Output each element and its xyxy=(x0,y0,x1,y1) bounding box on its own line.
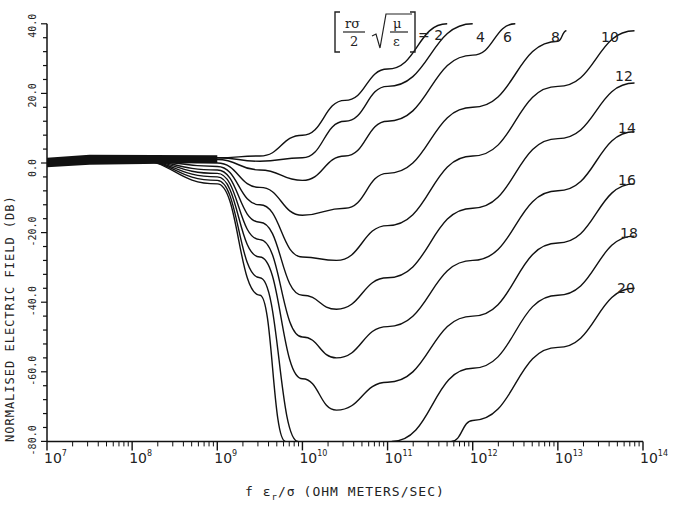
curve-12 xyxy=(47,83,635,309)
y-tick-label: -60.0 xyxy=(27,356,38,386)
curve-label-8: 8 xyxy=(551,29,560,45)
y-tick-label: 40.0 xyxy=(27,14,38,38)
x-tick-label: 1010 xyxy=(299,449,327,466)
curve-label-10: 10 xyxy=(601,29,619,45)
formula-equals: = 2 xyxy=(418,27,443,43)
y-tick-label: 0.0 xyxy=(27,159,38,177)
x-axis-title: f εr/σ(OHM METERS/SEC) xyxy=(245,484,445,502)
curve-18 xyxy=(392,236,635,441)
y-tick-label: 20.0 xyxy=(27,83,38,107)
x-tick-label: 108 xyxy=(129,449,152,466)
left-bracket-icon xyxy=(335,12,340,52)
chart: 40.020.00.0-20.0-40.0-60.0-80.0107108109… xyxy=(0,0,681,512)
curve-2 xyxy=(47,24,447,163)
curve-10 xyxy=(47,31,635,261)
x-tick-label: 1014 xyxy=(640,449,668,466)
curve-20 xyxy=(451,288,634,441)
curve-labels: 4 6 8 10 12 14 16 18 20 xyxy=(476,29,638,296)
curve-label-4: 4 xyxy=(476,29,485,45)
x-tick-label: 107 xyxy=(44,449,67,466)
curve-4 xyxy=(47,24,473,163)
curve-label-20: 20 xyxy=(617,280,635,296)
x-tick-label: 1011 xyxy=(385,449,413,466)
plot-area xyxy=(47,24,635,442)
y-axis-title: NORMALISED ELECTRIC FIELD (DB) xyxy=(3,195,17,442)
curve-label-12: 12 xyxy=(615,68,633,84)
curve-label-6: 6 xyxy=(503,29,512,45)
x-tick-label: 1012 xyxy=(470,449,498,466)
sqrt-icon xyxy=(372,14,412,48)
y-tick-label: -80.0 xyxy=(27,425,38,455)
legend-formula: rσ 2 μ ε = 2 xyxy=(335,12,443,52)
y-tick-label: -20.0 xyxy=(27,216,38,246)
curve-label-18: 18 xyxy=(620,225,638,241)
y-tick-label: -40.0 xyxy=(27,286,38,316)
formula-root-denominator: ε xyxy=(393,34,400,49)
x-tick-label: 109 xyxy=(214,449,237,466)
curve-8 xyxy=(47,31,566,215)
formula-root-numerator: μ xyxy=(393,16,401,31)
curve-label-14: 14 xyxy=(618,120,636,136)
curve-16 xyxy=(47,160,635,411)
curve-label-16: 16 xyxy=(618,172,636,188)
formula-numerator: rσ xyxy=(345,16,360,31)
x-tick-label: 1013 xyxy=(555,449,583,466)
right-bracket-icon xyxy=(410,12,415,52)
curve-18 xyxy=(47,160,298,442)
formula-denominator: 2 xyxy=(350,34,358,49)
